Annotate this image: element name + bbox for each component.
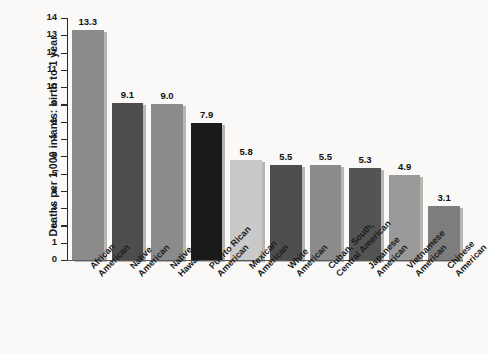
y-axis-tick-label: 13 xyxy=(46,28,57,39)
y-axis-tick: 7 xyxy=(61,139,67,140)
y-axis-tick: 3 xyxy=(61,208,67,209)
y-axis-tick: 11 xyxy=(61,70,67,71)
bar-column[interactable]: 5.5 xyxy=(310,18,342,260)
y-axis-tick-label: 1 xyxy=(52,236,57,247)
y-axis-tick-label: 14 xyxy=(46,11,57,22)
y-axis-tick-label: 4 xyxy=(52,184,57,195)
y-axis-tick: 14 xyxy=(61,18,67,19)
bar-column[interactable]: 5.5 xyxy=(270,18,302,260)
y-axis-tick-label: 5 xyxy=(52,167,57,178)
bar-value-label: 5.8 xyxy=(240,146,253,157)
y-axis-tick: 2 xyxy=(61,225,67,226)
y-axis-tick: 5 xyxy=(61,174,67,175)
bar-column[interactable]: 9.1 xyxy=(112,18,144,260)
bar-column[interactable]: 7.9 xyxy=(191,18,223,260)
bar-column[interactable]: 4.9 xyxy=(389,18,421,260)
y-axis-tick: 1 xyxy=(61,243,67,244)
y-axis-tick-label: 7 xyxy=(52,132,57,143)
bar-value-label: 5.5 xyxy=(279,151,292,162)
y-axis-tick: 9 xyxy=(61,104,67,105)
bar-value-label: 13.3 xyxy=(79,16,98,27)
y-axis-tick-label: 9 xyxy=(52,97,57,108)
bar-value-label: 5.3 xyxy=(358,154,371,165)
bar-value-label: 4.9 xyxy=(398,161,411,172)
y-axis-tick-label: 3 xyxy=(52,201,57,212)
bar-value-label: 3.1 xyxy=(438,192,451,203)
y-axis-tick-label: 12 xyxy=(46,46,57,57)
y-axis-tick: 13 xyxy=(61,35,67,36)
y-axis-tick-label: 8 xyxy=(52,115,57,126)
bar-column[interactable]: 9.0 xyxy=(151,18,183,260)
y-axis-tick-label: 0 xyxy=(52,253,57,264)
bar-column[interactable]: 13.3 xyxy=(72,18,104,260)
y-axis-tick: 4 xyxy=(61,191,67,192)
bar-column[interactable]: 3.1 xyxy=(428,18,460,260)
bar-value-label: 9.1 xyxy=(121,89,134,100)
bar-value-label: 7.9 xyxy=(200,109,213,120)
y-axis-tick-label: 11 xyxy=(47,63,57,74)
x-axis-labels: AfricanAmericanNativeAmericanNativeHawai… xyxy=(67,264,467,354)
bar-value-label: 5.5 xyxy=(319,151,332,162)
y-axis-tick: 12 xyxy=(61,53,67,54)
bar-series: 13.39.19.07.95.85.55.55.34.93.1 xyxy=(68,18,463,260)
bar-value-label: 9.0 xyxy=(160,90,173,101)
y-axis-tick-label: 6 xyxy=(52,149,57,160)
y-axis-tick: 6 xyxy=(61,156,67,157)
y-axis-tick: 8 xyxy=(61,122,67,123)
plot-area: 14131211109876543210 13.39.19.07.95.85.5… xyxy=(67,18,463,260)
bar[interactable] xyxy=(72,30,104,260)
y-axis-tick: 10 xyxy=(61,87,67,88)
y-axis-tick-label: 10 xyxy=(46,80,57,91)
y-axis-tick-label: 2 xyxy=(52,218,57,229)
